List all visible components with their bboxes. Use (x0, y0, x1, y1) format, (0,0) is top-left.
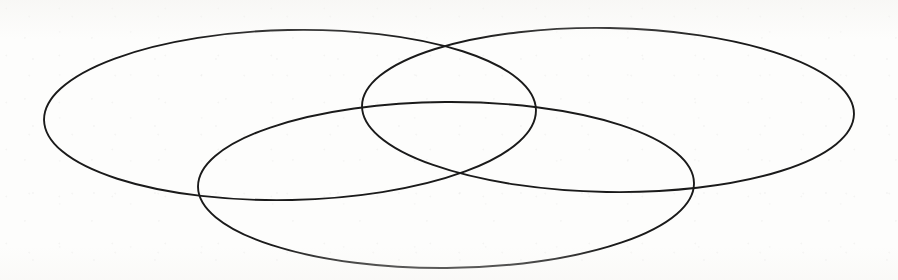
venn-diagram-figure: Three overlapping ellipses Line drawing … (0, 0, 898, 280)
ellipse-drawing-svg (0, 0, 898, 280)
figure-background (0, 0, 898, 280)
